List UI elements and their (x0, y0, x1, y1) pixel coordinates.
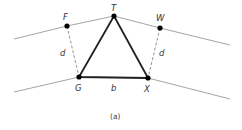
label-t: T (111, 3, 117, 13)
label-base-b: b (111, 83, 116, 93)
point-g (76, 74, 81, 79)
offset-line-fg (67, 26, 79, 77)
figure-caption: (a) (110, 112, 121, 121)
triangulation-diagram: T F W G X d d b (a) (0, 0, 242, 130)
triangle-tgx (79, 16, 148, 78)
point-f (64, 23, 69, 28)
label-g: G (75, 83, 82, 93)
label-w: W (156, 13, 165, 23)
point-t (111, 13, 116, 18)
point-x (145, 75, 150, 80)
label-right-offset-d: d (159, 48, 165, 58)
point-w (157, 25, 162, 30)
label-x: X (143, 84, 150, 94)
label-left-offset-d: d (60, 48, 66, 58)
label-f: F (63, 12, 68, 22)
lower-boundary-line (14, 77, 230, 99)
